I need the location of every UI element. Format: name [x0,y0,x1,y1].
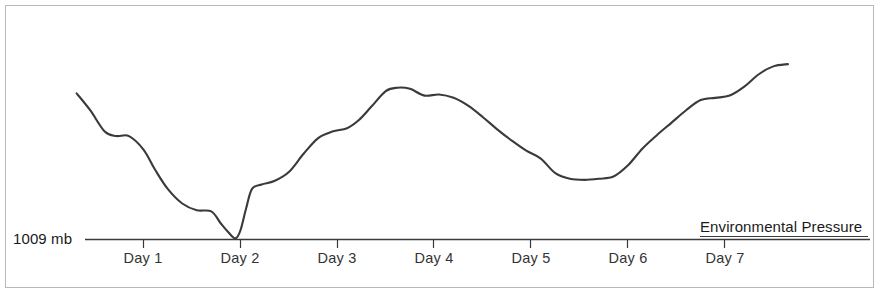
series-name-label: Environmental Pressure [700,218,862,235]
axis-ticks [144,240,725,249]
tick-label-day-4: Day 4 [415,250,454,266]
pressure-trace-line [77,64,788,238]
tick-label-day-3: Day 3 [318,250,357,266]
tick-label-day-1: Day 1 [124,250,163,266]
baseline-value-label: 1009 mb [13,230,72,247]
tick-label-day-6: Day 6 [609,250,648,266]
tick-label-day-5: Day 5 [512,250,551,266]
tick-label-day-2: Day 2 [221,250,260,266]
pressure-chart-figure: 1009 mb Environmental Pressure Day 1 Day… [0,0,879,296]
tick-label-day-7: Day 7 [706,250,745,266]
